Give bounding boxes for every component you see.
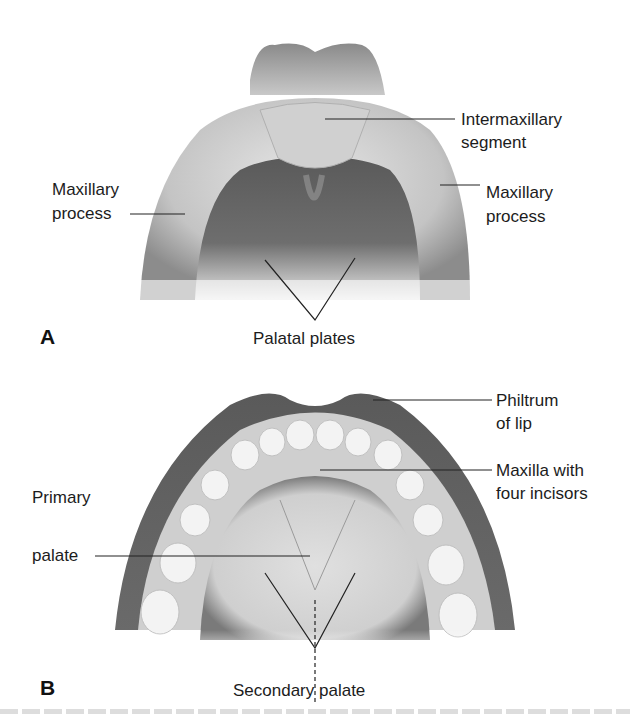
panel-letter-a: A [40,325,55,349]
label-maxilla-line2: four incisors [496,484,588,504]
cropped-caption-edge [0,709,630,714]
label-primary-palate-line2: palate [32,546,78,566]
label-intermaxillary-line2: segment [461,133,526,153]
label-maxillary-left-line1: Maxillary [52,180,119,200]
label-maxillary-right-line2: process [486,207,546,227]
label-primary-palate-line1: Primary [32,488,91,508]
label-palatal-plates: Palatal plates [253,329,355,349]
panel-letter-b: B [40,676,55,700]
panel-a-drawing [140,44,470,305]
label-philtrum-line1: Philtrum [496,391,558,411]
panel-b-drawing [110,394,520,660]
label-intermaxillary-line1: Intermaxillary [461,110,562,130]
label-secondary-palate: Secondary palate [233,681,365,701]
label-maxillary-right-line1: Maxillary [486,183,553,203]
label-maxillary-left-line2: process [52,204,112,224]
palate-diagram-artwork [0,0,630,714]
label-maxilla-line1: Maxilla with [496,461,584,481]
label-philtrum-line2: of lip [496,414,532,434]
